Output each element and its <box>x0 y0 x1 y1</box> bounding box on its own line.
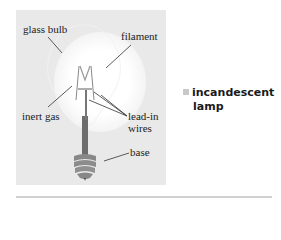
caption-line2: lamp <box>183 100 274 114</box>
label-inert-gas: inert gas <box>22 111 60 122</box>
filament-shape <box>80 66 90 80</box>
lead-in-wire-right <box>91 66 94 100</box>
lead-in-wire-left <box>76 66 79 100</box>
stem <box>82 116 88 156</box>
figure-caption: incandescent lamp <box>183 86 274 114</box>
label-glass-bulb: glass bulb <box>23 24 67 35</box>
support-wire <box>85 90 87 120</box>
label-lead-in-wires-line1: lead-in <box>128 111 159 122</box>
screw-base <box>74 154 96 181</box>
divider <box>16 196 272 198</box>
label-filament: filament <box>121 31 158 42</box>
caption-line1: incandescent <box>192 86 274 99</box>
label-base: base <box>130 147 150 158</box>
caption-marker-icon <box>183 89 189 95</box>
label-lead-in-wires-line2: wires <box>128 123 152 134</box>
